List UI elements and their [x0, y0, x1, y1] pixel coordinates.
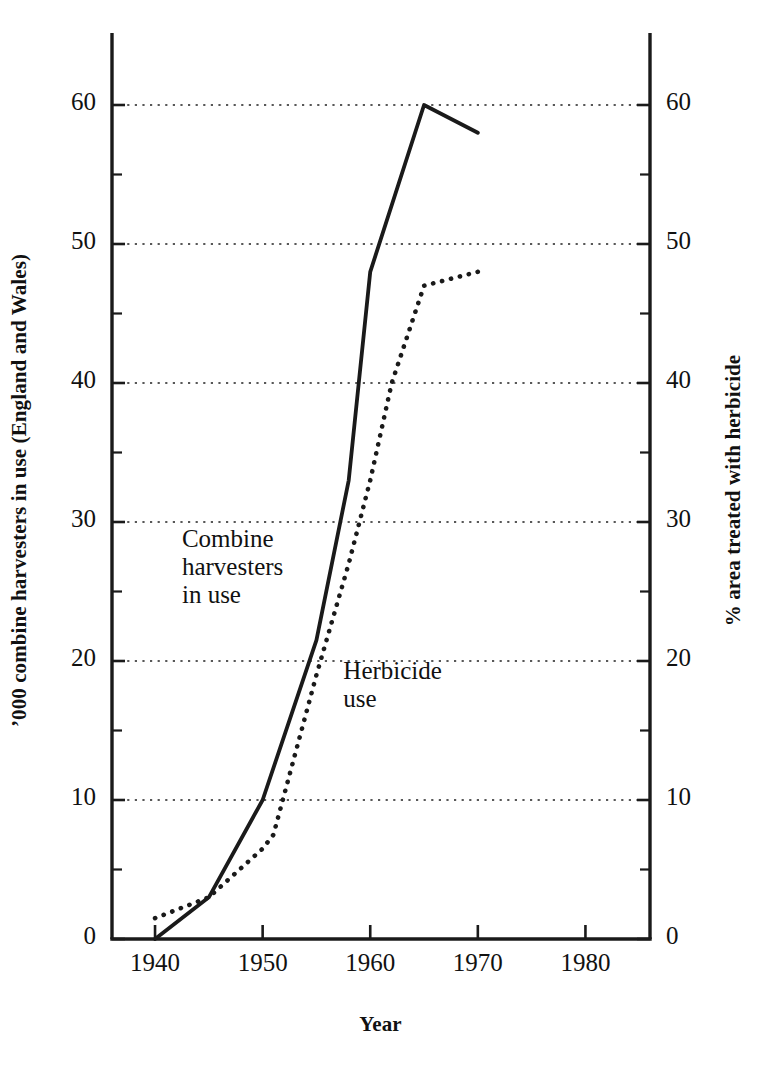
x-tick-label-1950: 1950: [218, 949, 308, 977]
x-tick-label-1940: 1940: [110, 949, 200, 977]
y-tick-label-left-0: 0: [84, 922, 97, 950]
combine-harvesters-label: Combine harvesters in use: [182, 525, 283, 609]
chart-page: ’000 combine harvesters in use (England …: [0, 0, 761, 1075]
y-tick-label-left-40: 40: [71, 366, 96, 394]
y-tick-label-right-0: 0: [666, 922, 679, 950]
y-tick-label-right-40: 40: [666, 366, 691, 394]
y-tick-label-left-60: 60: [71, 88, 96, 116]
y-tick-label-right-20: 20: [666, 644, 691, 672]
y-tick-label-left-20: 20: [71, 644, 96, 672]
herbicide-use-label: Herbicide use: [343, 657, 442, 713]
x-tick-label-1970: 1970: [433, 949, 523, 977]
y-tick-label-right-30: 30: [666, 505, 691, 533]
chart-canvas: [0, 0, 761, 1075]
x-tick-label-1960: 1960: [325, 949, 415, 977]
y-tick-label-right-50: 50: [666, 227, 691, 255]
y-tick-label-right-60: 60: [666, 88, 691, 116]
y-tick-label-left-50: 50: [71, 227, 96, 255]
y-tick-label-right-10: 10: [666, 783, 691, 811]
axis-spines-group: [110, 33, 651, 939]
y-tick-label-left-30: 30: [71, 505, 96, 533]
x-tick-label-1980: 1980: [540, 949, 630, 977]
y-tick-label-left-10: 10: [71, 783, 96, 811]
